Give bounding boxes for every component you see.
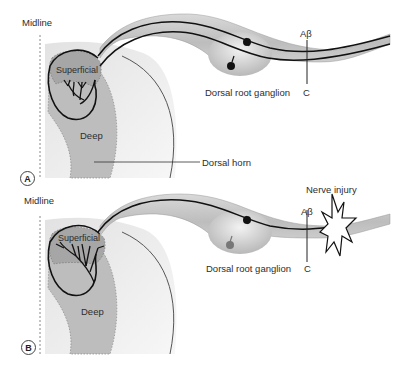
superficial-label-b: Superficial xyxy=(58,234,100,243)
abeta-cell-body xyxy=(243,216,251,224)
drg-label-b: Dorsal root ganglion xyxy=(206,264,291,274)
abeta-label-a: Aβ xyxy=(300,29,312,39)
c-cell-body xyxy=(227,62,235,70)
c-cell-body-degenerated xyxy=(226,241,234,249)
dorsal-root-ganglion xyxy=(208,210,272,254)
panel-badge-b: B xyxy=(21,340,36,355)
abeta-cell-body xyxy=(243,38,251,46)
c-label-a: C xyxy=(303,88,310,98)
deep-label-b: Deep xyxy=(81,307,104,317)
dorsal-horn-label-a: Dorsal horn xyxy=(202,158,251,168)
midline-label-b: Midline xyxy=(24,196,54,206)
dorsal-root-ganglion xyxy=(208,32,272,76)
panel-badge-a: A xyxy=(20,171,35,186)
superficial-label-a: Superficial xyxy=(56,66,98,75)
c-label-b: C xyxy=(304,264,311,274)
abeta-label-b: Aβ xyxy=(301,207,313,217)
deep-label-a: Deep xyxy=(80,131,103,141)
drg-label-a: Dorsal root ganglion xyxy=(205,88,290,98)
nerve-injury-label: Nerve injury xyxy=(306,185,357,195)
midline-label-a: Midline xyxy=(22,18,52,28)
panel-b xyxy=(40,194,390,354)
